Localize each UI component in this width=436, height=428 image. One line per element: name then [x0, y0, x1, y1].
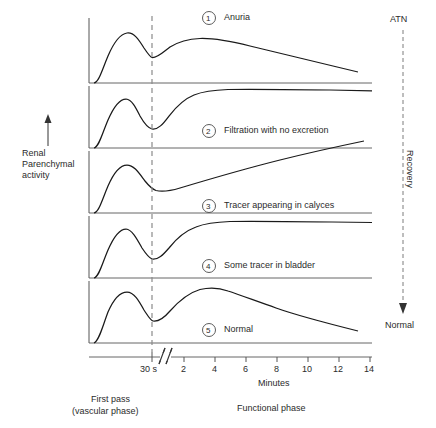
renogram-figure: 1 2 3 4 5 Anuria Filtration with no excr…: [0, 0, 436, 428]
panel-5-label: Normal: [224, 324, 253, 335]
right-top-label-atn: ATN: [390, 14, 407, 25]
x-axis-unit-label: Minutes: [258, 378, 290, 389]
y-axis-label-line2: Parenchymal: [22, 159, 75, 170]
panel-5-number: 5: [206, 325, 210, 336]
tick-label-14: 14: [364, 364, 374, 375]
panel-2-label: Filtration with no excretion: [224, 125, 329, 136]
panel-3-label: Tracer appearing in calyces: [224, 200, 334, 211]
activity-arrow-icon: [45, 114, 52, 146]
panel-1-label: Anuria: [224, 12, 250, 23]
tick-label-30s: 30 s: [140, 364, 157, 375]
tick-label-8: 8: [274, 364, 279, 375]
y-axis-label-line1: Renal: [22, 148, 46, 159]
axis-break-mark: [159, 348, 172, 364]
panel-2-group: [89, 86, 372, 148]
panel-2-number: 2: [206, 126, 210, 137]
tick-label-2: 2: [181, 364, 186, 375]
panel-1-number: 1: [206, 13, 210, 24]
tick-label-12: 12: [333, 364, 343, 375]
panel-3-number: 3: [206, 201, 210, 212]
tick-label-10: 10: [302, 364, 312, 375]
y-axis-label-line3: activity: [22, 170, 50, 181]
phase-right-label: Functional phase: [237, 403, 306, 414]
curve-filtration-no-excretion: [94, 89, 372, 148]
phase-left-line1: First pass: [91, 394, 130, 405]
tick-label-4: 4: [212, 364, 217, 375]
recovery-axis-label: Recovery: [405, 150, 415, 188]
tick-label-6: 6: [243, 364, 248, 375]
right-bottom-label-normal: Normal: [385, 320, 414, 331]
minute-ticks: [184, 357, 370, 362]
panel-4-label: Some tracer in bladder: [224, 260, 315, 271]
panel-1-group: [89, 18, 372, 83]
curve-anuria: [94, 33, 358, 83]
panel-4-number: 4: [206, 261, 210, 272]
phase-left-line2: (vascular phase): [72, 406, 139, 417]
